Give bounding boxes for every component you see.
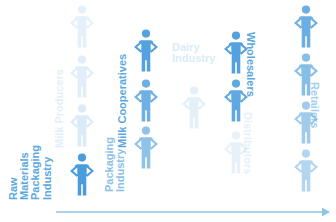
column-label-milk-cooperatives: Milk Cooperatives — [117, 54, 128, 148]
figure-icon-retailers — [292, 148, 320, 194]
figure-icon-retailers — [292, 4, 320, 50]
column-label-dairy-industry: Dairy Industry — [172, 42, 215, 64]
figure-icon-milk-cooperatives — [132, 28, 160, 74]
figure-icon-packaging-industry — [132, 125, 160, 171]
supply-chain-diagram: Raw Materials Packaging IndustryMilk Pro… — [0, 0, 336, 222]
column-label-distributors: Distributors — [242, 112, 253, 174]
figure-icon-milk-cooperatives — [132, 78, 160, 124]
column-label-packaging-industry: Packaging Industry — [104, 137, 126, 192]
figure-icon-dairy-industry — [180, 85, 208, 131]
figure-icon-milk-producers — [68, 4, 96, 50]
column-label-wholesalers: Wholesalers — [245, 32, 256, 97]
column-label-milk-producers: Milk Producers — [54, 69, 65, 148]
column-label-retailers: Retailers — [309, 82, 320, 128]
figure-icon-milk-producers — [68, 54, 96, 100]
figure-icon-raw-materials-packaging-industry — [68, 152, 96, 198]
column-label-raw-materials-packaging-industry: Raw Materials Packaging Industry — [8, 145, 53, 200]
figure-icon-milk-producers — [68, 103, 96, 149]
